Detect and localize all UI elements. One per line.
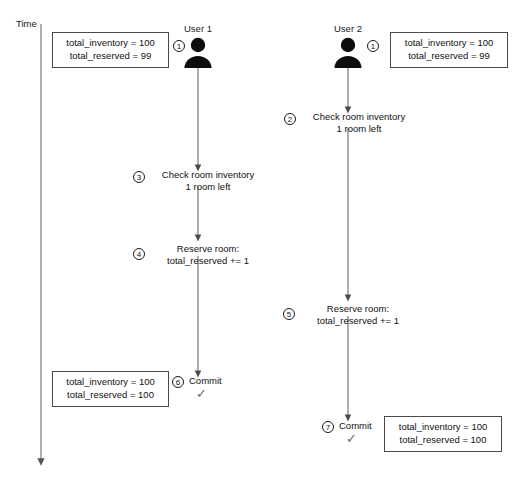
state-line-inventory: total_inventory = 100 [60, 37, 161, 50]
step-6-badge: 6 [172, 376, 184, 388]
step-2-line1: Check room inventory [299, 111, 419, 123]
step-2-badge: 2 [284, 113, 296, 125]
step-3-label: Check room inventory 1 room left [148, 169, 268, 193]
state-box-user2-final: total_inventory = 100 total_reserved = 1… [384, 416, 502, 452]
step-2-label: Check room inventory 1 room left [299, 111, 419, 135]
state-line-inventory: total_inventory = 100 [398, 37, 500, 50]
step-4-line1: Reserve room: [148, 243, 268, 255]
actor-label-user2: User 2 [326, 23, 370, 35]
state-line-reserved: total_reserved = 100 [60, 389, 161, 402]
state-line-reserved: total_reserved = 99 [398, 50, 500, 63]
step-3-badge: 3 [133, 171, 145, 183]
step-badge-user2-1: 1 [367, 40, 379, 52]
state-box-user1-final: total_inventory = 100 total_reserved = 1… [52, 371, 169, 407]
step-3-line1: Check room inventory [148, 169, 268, 181]
step-4-label: Reserve room: total_reserved += 1 [148, 243, 268, 267]
step-5-line2: total_reserved += 1 [298, 315, 418, 327]
state-box-user1-initial: total_inventory = 100 total_reserved = 9… [52, 32, 169, 68]
step-7-badge: 7 [322, 421, 334, 433]
step-2-line2: 1 room left [299, 123, 419, 135]
user1-avatar-icon [185, 38, 212, 68]
user2-avatar-icon [335, 38, 362, 68]
step-7-check-icon: ✓ [346, 431, 357, 446]
time-axis-label: Time [16, 18, 37, 30]
step-5-badge: 5 [283, 308, 295, 320]
step-4-badge: 4 [133, 248, 145, 260]
sequence-diagram: Time User 1 User 2 1 1 total_inventory =… [0, 0, 513, 488]
state-line-reserved: total_reserved = 100 [392, 434, 494, 447]
step-5-line1: Reserve room: [298, 303, 418, 315]
state-box-user2-initial: total_inventory = 100 total_reserved = 9… [390, 32, 508, 68]
state-line-inventory: total_inventory = 100 [60, 376, 161, 389]
state-line-reserved: total_reserved = 99 [60, 50, 161, 63]
step-badge-user1-1: 1 [173, 40, 185, 52]
step-4-line2: total_reserved += 1 [148, 255, 268, 267]
actor-label-user1: User 1 [176, 23, 220, 35]
step-5-label: Reserve room: total_reserved += 1 [298, 303, 418, 327]
step-3-line2: 1 room left [148, 181, 268, 193]
state-line-inventory: total_inventory = 100 [392, 421, 494, 434]
step-6-check-icon: ✓ [196, 386, 207, 401]
